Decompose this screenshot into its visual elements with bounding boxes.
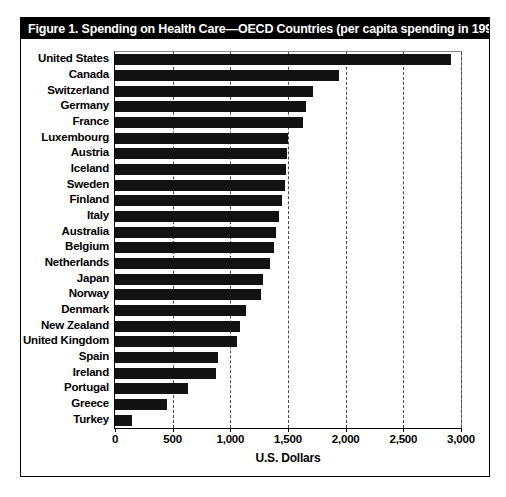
category-label: United States [38, 52, 109, 64]
bar-row: Germany [115, 101, 461, 112]
bar-row: Spain [115, 352, 461, 363]
x-tick-label: 0 [112, 433, 118, 445]
category-label: Norway [69, 287, 109, 299]
bar-row: Australia [115, 227, 461, 238]
figure-screenshot: Figure 1. Spending on Health Care—OECD C… [0, 0, 506, 497]
category-label: Germany [61, 99, 109, 111]
bar-row: Denmark [115, 305, 461, 316]
category-label: Switzerland [47, 84, 109, 96]
bar-row: Sweden [115, 180, 461, 191]
x-tick-label: 2,000 [332, 433, 360, 445]
category-label: New Zealand [41, 319, 109, 331]
category-label: United Kingdom [23, 334, 109, 346]
category-label: Netherlands [45, 256, 109, 268]
bar-row: Japan [115, 274, 461, 285]
x-tick-label: 3,000 [447, 433, 475, 445]
bar-row: United States [115, 54, 461, 65]
category-label: Luxembourg [41, 131, 109, 143]
x-tick-1000 [230, 428, 231, 432]
bar-row: Iceland [115, 164, 461, 175]
category-label: Sweden [67, 178, 109, 190]
bar-row: United Kingdom [115, 336, 461, 347]
bar-row: New Zealand [115, 321, 461, 332]
bar [115, 399, 167, 410]
bar [115, 305, 246, 316]
category-label: Canada [69, 68, 109, 80]
x-tick-label: 2,500 [389, 433, 417, 445]
category-label: Japan [77, 272, 109, 284]
bar [115, 368, 216, 379]
category-label: Denmark [61, 303, 109, 315]
bar [115, 352, 218, 363]
bar [115, 180, 285, 191]
bar [115, 101, 306, 112]
x-tick-500 [173, 428, 174, 432]
x-tick-2000 [346, 428, 347, 432]
category-label: France [72, 115, 109, 127]
bar [115, 117, 303, 128]
bar-row: Canada [115, 70, 461, 81]
x-tick-3000 [461, 428, 462, 432]
bar [115, 54, 451, 65]
figure-title-bar: Figure 1. Spending on Health Care—OECD C… [21, 18, 489, 39]
bar-row: Ireland [115, 368, 461, 379]
category-label: Finland [70, 193, 110, 205]
bar [115, 242, 274, 253]
category-label: Turkey [73, 413, 109, 425]
category-label: Ireland [73, 366, 109, 378]
bar [115, 336, 237, 347]
category-label: Australia [62, 225, 109, 237]
x-tick-label: 500 [163, 433, 182, 445]
bar-row: Luxembourg [115, 133, 461, 144]
bar-row: Italy [115, 211, 461, 222]
bar [115, 289, 261, 300]
bar-row: Finland [115, 195, 461, 206]
x-tick-2500 [403, 428, 404, 432]
bar-row: Belgium [115, 242, 461, 253]
bar [115, 415, 132, 426]
gridline-3000 [461, 52, 462, 428]
bar [115, 227, 276, 238]
bar [115, 133, 288, 144]
bar-chart-plot-area: United StatesCanadaSwitzerlandGermanyFra… [114, 51, 462, 429]
bar-row: Switzerland [115, 86, 461, 97]
bar-series: United StatesCanadaSwitzerlandGermanyFra… [115, 52, 461, 428]
chart-body: United StatesCanadaSwitzerlandGermanyFra… [21, 39, 489, 476]
bar-row: Austria [115, 148, 461, 159]
bar [115, 86, 313, 97]
category-label: Italy [87, 209, 109, 221]
figure-frame: Figure 1. Spending on Health Care—OECD C… [20, 17, 490, 477]
bar [115, 258, 270, 269]
x-tick-1500 [288, 428, 289, 432]
category-label: Portugal [64, 381, 109, 393]
bar-row: Portugal [115, 383, 461, 394]
bar-row: Greece [115, 399, 461, 410]
bar [115, 211, 279, 222]
bar [115, 383, 188, 394]
category-label: Spain [79, 350, 109, 362]
bar [115, 321, 240, 332]
x-tick-0 [115, 428, 116, 432]
bar-row: Turkey [115, 415, 461, 426]
bar-row: Norway [115, 289, 461, 300]
category-label: Austria [71, 146, 109, 158]
bar [115, 70, 339, 81]
category-label: Belgium [65, 240, 109, 252]
bar [115, 164, 286, 175]
page-title: Figure 1. Spending on Health Care—OECD C… [28, 22, 489, 36]
x-tick-label: 1,000 [216, 433, 244, 445]
category-label: Greece [71, 397, 109, 409]
bar [115, 274, 263, 285]
category-label: Iceland [71, 162, 109, 174]
x-tick-label: 1,500 [274, 433, 302, 445]
bar-row: Netherlands [115, 258, 461, 269]
bar [115, 195, 282, 206]
bar [115, 148, 287, 159]
x-axis-title: U.S. Dollars [115, 451, 461, 465]
bar-row: France [115, 117, 461, 128]
